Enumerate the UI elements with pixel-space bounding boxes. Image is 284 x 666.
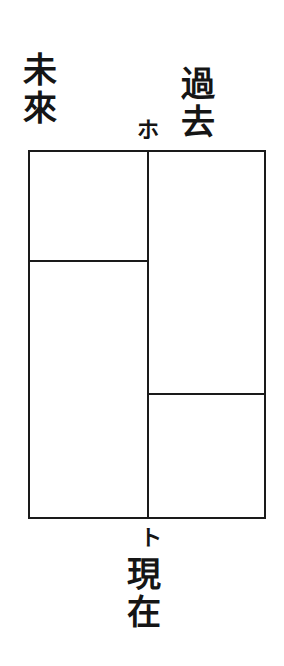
right-column-divider: [147, 393, 265, 395]
left-column-divider: [28, 260, 148, 262]
label-point-to: ト: [140, 526, 162, 548]
label-future: 未來: [20, 52, 54, 128]
center-divider: [147, 150, 149, 519]
label-point-ho: ホ: [137, 118, 159, 140]
label-present: 現在: [124, 556, 158, 632]
label-past: 過去: [178, 66, 212, 142]
frame-left-edge: [28, 150, 30, 519]
frame-right-edge: [264, 150, 266, 519]
